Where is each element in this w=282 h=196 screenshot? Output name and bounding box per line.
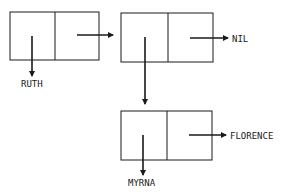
cons-cell-3 xyxy=(121,111,226,175)
cons-cell-2 xyxy=(121,13,228,104)
label-ruth: RUTH xyxy=(21,79,43,89)
label-myrna: MYRNA xyxy=(128,178,156,188)
label-florence: FLORENCE xyxy=(230,131,273,141)
label-nil: NIL xyxy=(232,34,248,44)
cons-cell-1 xyxy=(10,12,113,76)
diagram-canvas: RUTH NIL FLORENCE MYRNA xyxy=(0,0,282,196)
